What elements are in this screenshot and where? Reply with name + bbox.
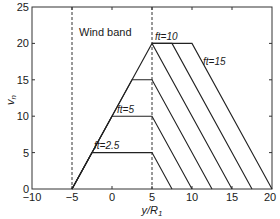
y-tick-label: 20 bbox=[17, 37, 29, 49]
ft-2-5-label: ft=2.5 bbox=[94, 140, 120, 151]
ft-10-label: ft=10 bbox=[155, 31, 178, 42]
y-tick-label: 15 bbox=[17, 74, 29, 86]
x-tick-label: 0 bbox=[109, 191, 115, 203]
series-ft-7-5 bbox=[72, 80, 212, 189]
y-tick-label: 5 bbox=[23, 147, 29, 159]
x-tick-label: −10 bbox=[23, 191, 42, 203]
x-tick-label: 10 bbox=[186, 191, 198, 203]
wind-band-label: Wind band bbox=[79, 26, 132, 38]
ft-5-label: ft=5 bbox=[117, 104, 134, 115]
x-tick-label: −5 bbox=[66, 191, 79, 203]
x-tick-label: 5 bbox=[149, 191, 155, 203]
x-tick-labels: −10 −5 0 5 10 15 20 bbox=[23, 191, 276, 203]
ft-15-label: ft=15 bbox=[203, 56, 226, 67]
series-lines bbox=[72, 43, 272, 189]
y-tick-label: 25 bbox=[17, 1, 29, 13]
series-ft-12-5 bbox=[152, 43, 252, 189]
y-tick-labels: 0 5 10 15 20 25 bbox=[17, 1, 29, 195]
x-axis-label: y/R1 bbox=[141, 204, 163, 218]
y-tick-label: 10 bbox=[17, 110, 29, 122]
series-ft-2-5 bbox=[72, 153, 172, 189]
x-tick-label: 20 bbox=[264, 191, 276, 203]
x-tick-label: 15 bbox=[226, 191, 238, 203]
y-axis-label: vn bbox=[4, 94, 18, 105]
chart: 0 5 10 15 20 25 −10 −5 0 5 10 15 20 y/R1… bbox=[0, 0, 280, 219]
